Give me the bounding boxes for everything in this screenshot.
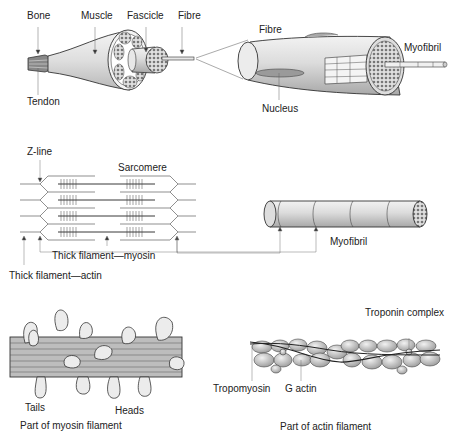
label-myofibril: Myofibril — [330, 236, 367, 248]
myofibril-illustration — [264, 201, 427, 227]
label-tendon: Tendon — [27, 96, 60, 108]
label-thick-filament-actin: Thick filament—actin — [9, 270, 102, 282]
muscle-structure-diagram — [0, 0, 461, 438]
label-thick-filament-myosin: Thick filament—myosin — [52, 250, 155, 262]
whole-muscle-illustration — [28, 30, 248, 90]
label-fascicle: Fascicle — [127, 10, 164, 22]
label-tails: Tails — [25, 402, 45, 414]
label-sarcomere: Sarcomere — [118, 162, 167, 174]
label-heads: Heads — [115, 405, 144, 417]
label-g-actin: G actin — [285, 383, 317, 395]
label-fibre: Fibre — [259, 24, 282, 36]
myosin-filament-illustration — [10, 310, 184, 398]
label-troponin-complex: Troponin complex — [365, 307, 444, 319]
sarcomere-illustration — [20, 176, 196, 240]
caption-myosin-filament: Part of myosin filament — [20, 420, 122, 432]
label-muscle: Muscle — [81, 10, 113, 22]
label-nucleus: Nucleus — [262, 103, 298, 115]
caption-actin-filament: Part of actin filament — [280, 421, 371, 433]
actin-filament-illustration — [250, 339, 440, 374]
label-myofibril-fibre: Myofibril — [404, 42, 441, 54]
label-fibre-muscle: Fibre — [178, 10, 201, 22]
label-z-line: Z-line — [27, 146, 52, 158]
label-tropomyosin: Tropomyosin — [213, 383, 270, 395]
label-bone: Bone — [27, 10, 50, 22]
